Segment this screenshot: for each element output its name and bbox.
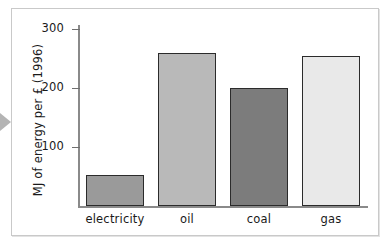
x-axis-line <box>78 206 368 208</box>
y-axis-tick-mark <box>72 88 80 89</box>
x-axis-label-gas: gas <box>288 212 374 226</box>
plot-area: 300200100 MJ of energy per £ (1996) elec… <box>0 0 391 246</box>
y-axis-tick-mark <box>72 29 80 30</box>
y-axis-tick-mark <box>72 147 80 148</box>
bar-gas[interactable] <box>302 56 360 206</box>
bar-chart-figure: 300200100 MJ of energy per £ (1996) elec… <box>0 0 391 246</box>
y-axis-line <box>78 25 80 208</box>
bar-coal[interactable] <box>230 88 288 206</box>
y-axis-title: MJ of energy per £ (1996) <box>31 20 45 220</box>
bar-oil[interactable] <box>158 53 216 206</box>
bar-electricity[interactable] <box>86 175 144 206</box>
